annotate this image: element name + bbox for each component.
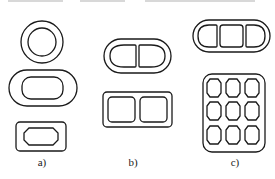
single-circle-shape	[21, 21, 63, 63]
panel-a: a)	[9, 21, 77, 169]
panel-b-label: b)	[128, 156, 138, 169]
two-cavity-rect-shape	[103, 92, 172, 127]
single-octagon-rect-shape	[16, 122, 66, 151]
panel-c-label: c)	[231, 156, 240, 169]
single-oval-shape	[9, 70, 77, 106]
panel-b: b)	[103, 39, 172, 169]
cavity-layout-diagram: a) b)	[0, 0, 275, 179]
panel-a-label: a)	[38, 156, 47, 169]
nine-cavity-grid-shape	[203, 74, 265, 152]
cropped-header-artifact	[8, 0, 255, 2]
two-cavity-stadium-shape	[104, 39, 171, 73]
three-cavity-stadium-shape	[193, 20, 270, 52]
panel-c: c)	[193, 20, 270, 169]
